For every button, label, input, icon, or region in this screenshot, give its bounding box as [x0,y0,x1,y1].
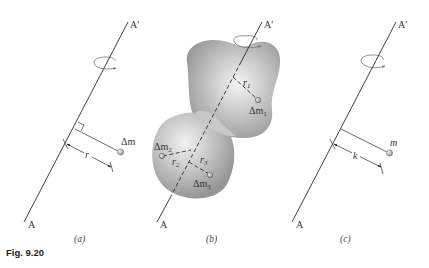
rotation-axis [292,22,396,222]
mass-point [386,150,392,156]
axis-bottom-label: A [296,219,304,230]
perpendicular-line [75,129,120,152]
axis-bottom-label: A [28,219,36,230]
perpendicular-line [341,129,389,153]
mass-point [117,149,123,155]
axis-top-label: A′ [264,19,273,30]
rotation-arrow-icon [94,57,116,69]
panel-a: A′ A Δm r (a) [24,19,139,245]
figure-9-20: A′ A Δm r (a) A′ A r [0,0,429,268]
axis-top-label: A′ [130,19,139,30]
distance-label: k [353,150,358,161]
panel-label: (a) [74,234,85,245]
right-angle-icon [78,122,84,131]
panel-b: A′ A r1 Δm1 r2 Δm2 r3 Δm3 (b) [152,19,280,245]
axis-top-label: A′ [398,19,407,30]
mass-label: Δm [121,136,135,147]
rigid-body [152,40,280,199]
figure-caption: Fig. 9.20 [6,247,44,258]
distance-label: r [85,149,89,160]
mass-label: m [390,137,397,148]
panel-label: (b) [206,234,217,245]
panel-c: A′ A m k (c) [292,19,407,245]
mass-point-1 [255,97,260,102]
axis-bottom-label: A [160,219,168,230]
mass-point-2 [159,153,164,158]
panel-label: (c) [340,234,351,245]
rotation-axis [24,22,128,222]
mass-point-3 [207,172,212,177]
